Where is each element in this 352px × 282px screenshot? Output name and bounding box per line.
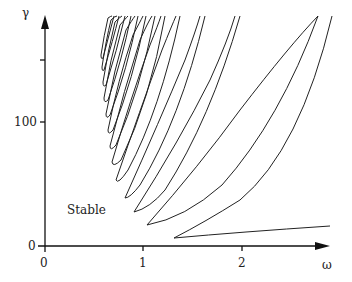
axes [38,20,318,252]
y-tick-0: 0 [28,239,36,253]
y-axis-label: γ [22,6,29,20]
x-axis-label: ω [322,258,332,272]
x-axis-arrow-icon [315,242,330,250]
stable-region-label: Stable [67,203,106,217]
x-tick-2: 2 [238,256,246,270]
y-tick-100: 100 [14,115,37,129]
x-tick-0: 0 [40,256,48,270]
x-tick-1: 1 [139,256,147,270]
stability-chart [0,0,352,282]
y-axis-arrow-icon [41,15,49,29]
tongues [101,16,332,238]
